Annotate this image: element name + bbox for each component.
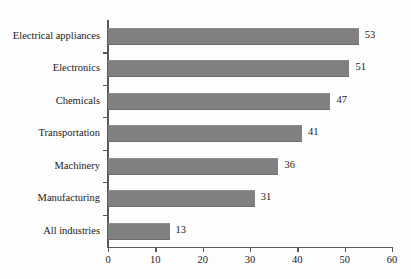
bar-row: 41 [108,117,392,149]
x-axis-tick [250,247,251,252]
category-label: All industries [0,224,100,238]
bar-value-label: 31 [261,189,272,205]
x-axis-tick [155,247,156,252]
x-axis-tick [297,247,298,252]
x-axis-tick [345,247,346,252]
x-axis-tick-label: 50 [325,253,365,267]
x-axis-tick-label: 40 [277,253,317,267]
x-axis-tick [108,247,109,252]
bar-value-label: 47 [336,92,347,108]
bar-row: 13 [108,215,392,247]
x-axis-tick-label: 60 [372,253,411,267]
bar-row: 47 [108,85,392,117]
bar [108,60,349,77]
plot-area: 53514741363113 [108,20,392,247]
bar-value-label: 41 [308,124,319,140]
bar-value-label: 36 [284,157,295,173]
x-axis-tick-label: 10 [135,253,175,267]
bar-row: 51 [108,52,392,84]
bar-row: 31 [108,182,392,214]
x-axis-tick-label: 20 [183,253,223,267]
bar [108,125,302,142]
bar [108,190,255,207]
bar-row: 53 [108,20,392,52]
bar-value-label: 13 [176,222,187,238]
x-axis-tick [203,247,204,252]
bar-chart: Electrical appliancesElectronicsChemical… [0,0,411,279]
x-axis-tick-label: 30 [230,253,270,267]
category-label: Chemicals [0,94,100,108]
bar [108,223,170,240]
category-label: Machinery [0,159,100,173]
bar-value-label: 53 [365,27,376,43]
bar [108,28,359,45]
category-label: Manufacturing [0,191,100,205]
category-label: Electronics [0,61,100,75]
category-label: Transportation [0,126,100,140]
x-axis-tick-label: 0 [88,253,128,267]
x-axis-tick [392,247,393,252]
bar-row: 36 [108,150,392,182]
bar [108,158,278,175]
bar-value-label: 51 [355,59,366,75]
category-label: Electrical appliances [0,29,100,43]
bar [108,93,330,110]
